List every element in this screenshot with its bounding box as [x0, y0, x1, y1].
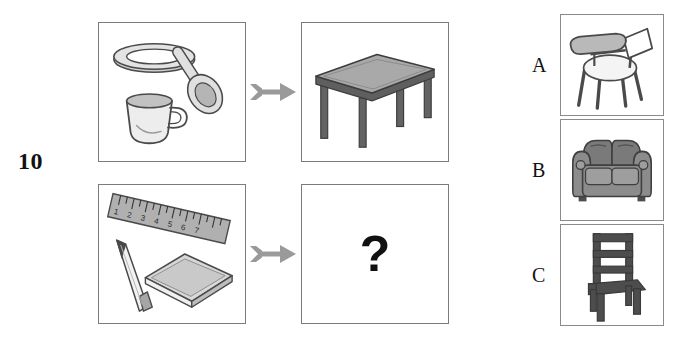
answer-options: A	[528, 14, 678, 330]
table-illustration	[302, 23, 448, 161]
desk-chair-icon	[571, 29, 653, 108]
ruler-icon: 1 2 3 4 5 6 7	[108, 194, 230, 244]
chair-icon	[588, 234, 645, 321]
option-label-a: A	[532, 54, 546, 77]
option-panel-c[interactable]	[560, 224, 664, 326]
sofa-icon	[573, 141, 651, 202]
panel-row1-source[interactable]	[98, 22, 246, 162]
arrow-row2	[250, 242, 296, 266]
option-row-a: A	[528, 14, 678, 116]
panel-row2-target[interactable]: ?	[301, 184, 449, 324]
option-label-c: C	[532, 264, 545, 287]
option-row-b: B	[528, 119, 678, 221]
arrow-row1	[250, 80, 296, 104]
sofa-illustration	[561, 120, 663, 220]
notebook-icon	[145, 254, 232, 307]
option-panel-b[interactable]	[560, 119, 664, 221]
table-icon	[316, 55, 434, 148]
tableware-illustration	[99, 23, 245, 161]
option-row-c: C	[528, 224, 678, 326]
pencil-icon	[117, 240, 152, 311]
arrow-right-icon	[250, 242, 296, 266]
panel-row2-source[interactable]: 1 2 3 4 5 6 7	[98, 184, 246, 324]
question-mark: ?	[302, 185, 448, 323]
arrow-right-icon	[250, 80, 296, 104]
cup-icon	[127, 94, 187, 143]
tablet-arm-desk-chair-illustration	[561, 15, 663, 115]
stationery-illustration: 1 2 3 4 5 6 7	[99, 185, 245, 323]
option-label-b: B	[532, 159, 545, 182]
option-panel-a[interactable]	[560, 14, 664, 116]
wooden-chair-illustration	[561, 225, 663, 325]
panel-row1-target[interactable]	[301, 22, 449, 162]
item-number: 10	[18, 148, 43, 175]
